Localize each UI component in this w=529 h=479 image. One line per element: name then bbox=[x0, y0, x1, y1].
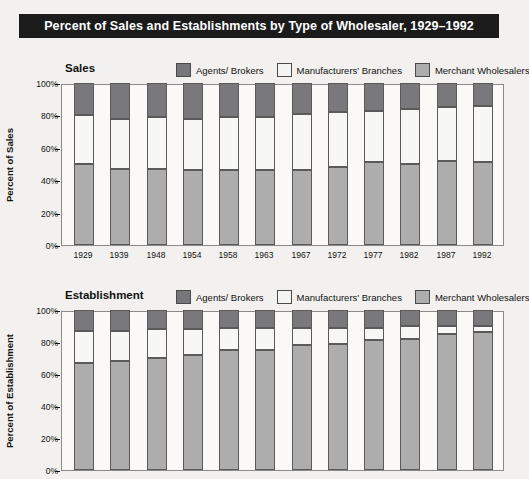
bar-segment-manufacturers-branches bbox=[183, 329, 203, 355]
legend-item-agents-brokers: Agents/ Brokers bbox=[176, 290, 264, 304]
y-tick-mark bbox=[55, 181, 60, 182]
bar-segment-manufacturers-branches bbox=[74, 115, 94, 164]
bar-1939 bbox=[110, 310, 130, 470]
legend-item-merchant-wholesalers: Merchant Wholesalers bbox=[415, 290, 529, 304]
bar-segment-agents-brokers bbox=[147, 310, 167, 329]
y-tick-mark bbox=[55, 375, 60, 376]
y-tick-mark bbox=[55, 439, 60, 440]
y-tick-mark bbox=[55, 343, 60, 344]
x-tick-label: 1992 bbox=[473, 250, 492, 260]
x-tick-label: 1954 bbox=[183, 250, 202, 260]
legend-label-merchant-wholesalers: Merchant Wholesalers bbox=[435, 292, 529, 303]
bar-segment-agents-brokers bbox=[364, 83, 384, 111]
bar-segment-manufacturers-branches bbox=[74, 331, 94, 363]
bar-1954 bbox=[183, 83, 203, 245]
agents-brokers-swatch-icon bbox=[176, 63, 191, 77]
chart-establishment-plot-area bbox=[61, 311, 504, 471]
bar-segment-agents-brokers bbox=[183, 310, 203, 329]
legend-label-agents-brokers: Agents/ Brokers bbox=[196, 292, 264, 303]
bar-1939 bbox=[110, 83, 130, 245]
x-tick-label: 1967 bbox=[292, 250, 311, 260]
bar-1967 bbox=[292, 310, 312, 470]
chart-establishment: Establishment Agents/ Brokers Manufactur… bbox=[0, 287, 517, 479]
y-tick-mark bbox=[55, 149, 60, 150]
bar-segment-manufacturers-branches bbox=[328, 328, 348, 344]
bar-1977 bbox=[364, 83, 384, 245]
bar-segment-agents-brokers bbox=[292, 310, 312, 328]
bar-1992 bbox=[473, 310, 493, 470]
bar-segment-manufacturers-branches bbox=[110, 119, 130, 169]
bar-segment-merchant-wholesalers bbox=[183, 170, 203, 245]
bar-segment-manufacturers-branches bbox=[292, 328, 312, 346]
bar-1982 bbox=[400, 310, 420, 470]
bar-segment-merchant-wholesalers bbox=[437, 334, 457, 470]
bar-segment-agents-brokers bbox=[473, 310, 493, 326]
bar-segment-agents-brokers bbox=[473, 83, 493, 106]
y-tick-mark bbox=[55, 311, 60, 312]
x-tick-label: 1963 bbox=[255, 250, 274, 260]
bar-segment-agents-brokers bbox=[219, 83, 239, 117]
x-tick-label: 1958 bbox=[219, 250, 238, 260]
bar-1963 bbox=[255, 83, 275, 245]
bar-segment-merchant-wholesalers bbox=[473, 332, 493, 470]
manufacturers-branches-swatch-icon bbox=[277, 63, 292, 77]
bar-segment-merchant-wholesalers bbox=[255, 350, 275, 470]
bar-1948 bbox=[147, 310, 167, 470]
bar-segment-merchant-wholesalers bbox=[219, 350, 239, 470]
bar-segment-merchant-wholesalers bbox=[328, 167, 348, 245]
bar-segment-agents-brokers bbox=[328, 83, 348, 112]
chart-establishment-header: Establishment Agents/ Brokers Manufactur… bbox=[0, 287, 517, 309]
x-tick-label: 1977 bbox=[364, 250, 383, 260]
bar-segment-agents-brokers bbox=[74, 83, 94, 115]
bar-segment-agents-brokers bbox=[110, 310, 130, 331]
chart-sales-plot-area bbox=[61, 84, 504, 246]
legend-label-manufacturers-branches: Manufacturers' Branches bbox=[297, 65, 402, 76]
bar-segment-manufacturers-branches bbox=[364, 328, 384, 341]
legend-label-agents-brokers: Agents/ Brokers bbox=[196, 65, 264, 76]
bar-1987 bbox=[437, 310, 457, 470]
bar-segment-merchant-wholesalers bbox=[183, 355, 203, 470]
merchant-wholesalers-swatch-icon bbox=[415, 63, 430, 77]
bar-1972 bbox=[328, 310, 348, 470]
bar-segment-manufacturers-branches bbox=[400, 109, 420, 164]
bar-segment-agents-brokers bbox=[364, 310, 384, 328]
y-tick-mark bbox=[55, 84, 60, 85]
bar-segment-manufacturers-branches bbox=[110, 331, 130, 361]
bar-segment-merchant-wholesalers bbox=[219, 170, 239, 245]
bar-1987 bbox=[437, 83, 457, 245]
bar-segment-agents-brokers bbox=[183, 83, 203, 119]
bar-segment-agents-brokers bbox=[400, 310, 420, 326]
chart-sales: Sales Agents/ Brokers Manufacturers' Bra… bbox=[0, 60, 517, 275]
bar-segment-manufacturers-branches bbox=[473, 106, 493, 163]
legend-item-manufacturers-branches: Manufacturers' Branches bbox=[277, 63, 402, 77]
bar-segment-agents-brokers bbox=[255, 83, 275, 117]
manufacturers-branches-swatch-icon bbox=[277, 290, 292, 304]
bar-segment-agents-brokers bbox=[400, 83, 420, 109]
bar-segment-agents-brokers bbox=[328, 310, 348, 328]
bar-segment-agents-brokers bbox=[292, 83, 312, 114]
bar-segment-manufacturers-branches bbox=[219, 117, 239, 170]
chart-establishment-y-ticks: 100%80%60%40%20%0% bbox=[28, 311, 58, 471]
bar-1967 bbox=[292, 83, 312, 245]
bar-1929 bbox=[74, 310, 94, 470]
bar-segment-merchant-wholesalers bbox=[364, 162, 384, 245]
chart-sales-subtitle: Sales bbox=[65, 62, 95, 74]
legend-item-merchant-wholesalers: Merchant Wholesalers bbox=[415, 63, 529, 77]
y-tick-mark bbox=[55, 471, 60, 472]
bar-1954 bbox=[183, 310, 203, 470]
legend-label-merchant-wholesalers: Merchant Wholesalers bbox=[435, 65, 529, 76]
bar-segment-merchant-wholesalers bbox=[74, 363, 94, 470]
bar-segment-manufacturers-branches bbox=[437, 326, 457, 334]
legend-item-agents-brokers: Agents/ Brokers bbox=[176, 63, 264, 77]
bar-1929 bbox=[74, 83, 94, 245]
y-tick-mark bbox=[55, 407, 60, 408]
merchant-wholesalers-swatch-icon bbox=[415, 290, 430, 304]
y-tick-mark bbox=[55, 246, 60, 247]
bar-1977 bbox=[364, 310, 384, 470]
chart-title-bar: Percent of Sales and Establishments by T… bbox=[19, 14, 499, 38]
bar-1972 bbox=[328, 83, 348, 245]
bar-1963 bbox=[255, 310, 275, 470]
bar-segment-manufacturers-branches bbox=[255, 328, 275, 350]
bar-segment-manufacturers-branches bbox=[147, 329, 167, 358]
bar-segment-manufacturers-branches bbox=[400, 326, 420, 339]
